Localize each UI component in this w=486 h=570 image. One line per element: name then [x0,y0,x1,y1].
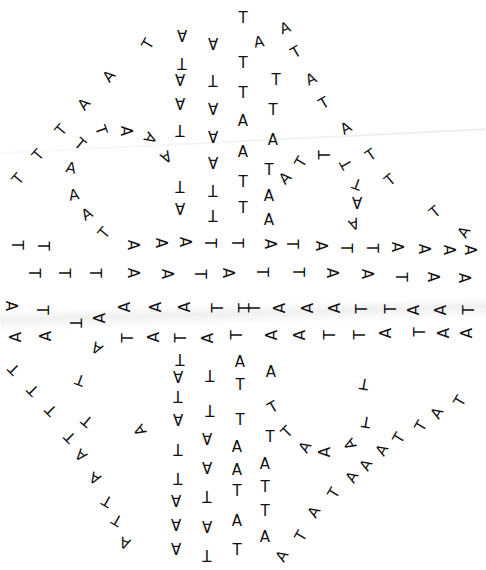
nucleotide-thymine: T [87,266,103,280]
nucleotide-adenine: A [125,266,141,280]
nucleotide-adenine: A [272,546,293,566]
nucleotide-adenine: A [159,267,175,281]
nucleotide-adenine: A [230,513,244,529]
nucleotide-adenine: A [266,132,280,148]
nucleotide-adenine: A [345,214,364,234]
nucleotide-thymine: T [56,266,72,280]
nucleotide-thymine: T [263,429,277,445]
nucleotide-adenine: A [173,200,187,216]
nucleotide-adenine: A [169,492,183,508]
nucleotide-thymine: T [236,174,250,190]
nucleotide-thymine: T [210,301,226,315]
nucleotide-thymine: T [206,182,220,198]
nucleotide-thymine: T [27,144,48,165]
nucleotide-thymine: T [411,416,432,436]
nucleotide-adenine: A [206,35,220,51]
nucleotide-adenine: A [118,124,134,138]
nucleotide-adenine: A [264,328,280,342]
nucleotide-thymine: T [286,42,306,63]
nucleotide-thymine: T [230,542,244,558]
nucleotide-adenine: A [313,239,329,253]
nucleotide-adenine: A [262,237,278,251]
nucleotide-thymine: T [393,270,409,284]
nucleotide-thymine: T [76,410,97,431]
nucleotide-thymine: T [40,399,61,420]
nucleotide-thymine: T [322,328,338,342]
nucleotide-thymine: T [354,302,370,316]
nucleotide-thymine: T [192,267,208,281]
nucleotide-adenine: A [378,326,394,340]
nucleotide-adenine: A [206,128,220,144]
nucleotide-thymine: T [69,133,90,154]
nucleotide-thymine: T [352,328,368,342]
nucleotide-thymine: T [200,547,214,563]
nucleotide-thymine: T [383,302,399,316]
nucleotide-thymine: T [206,207,220,223]
nucleotide-adenine: A [340,434,361,454]
nucleotide-adenine: A [251,33,268,51]
nucleotide-adenine: A [262,212,276,228]
nucleotide-thymine: T [203,402,217,418]
nucleotide-thymine: T [236,55,250,71]
nucleotide-adenine: A [336,118,356,139]
nucleotide-adenine: A [3,299,19,313]
nucleotide-adenine: A [66,186,83,204]
nucleotide-thymine: T [236,85,250,101]
nucleotide-adenine: A [153,236,169,250]
nucleotide-adenine: A [406,303,422,317]
nucleotide-thymine: T [379,169,400,190]
nucleotide-thymine: T [233,412,247,428]
nucleotide-thymine: T [229,236,245,250]
nucleotide-adenine: A [350,194,364,210]
nucleotide-thymine: T [93,222,114,243]
nucleotide-thymine: T [7,168,28,189]
nucleotide-adenine: A [427,403,448,423]
nucleotide-thymine: T [266,102,280,118]
nucleotide-adenine: A [456,271,472,285]
nucleotide-adenine: A [258,529,272,545]
nucleotide-thymine: T [258,503,272,519]
nucleotide-thymine: T [276,421,297,442]
nucleotide-adenine: A [38,329,54,343]
nucleotide-adenine: A [262,188,276,204]
nucleotide-thymine: T [348,174,367,194]
structure-diagram: TAATATATTTAAATTTTAAATTAATAAATTTATTATAAAA… [0,0,486,570]
nucleotide-thymine: T [338,241,354,255]
nucleotide-thymine: T [34,303,50,317]
nucleotide-adenine: A [146,330,162,344]
nucleotide-thymine: T [284,237,300,251]
nucleotide-adenine: A [177,300,193,314]
nucleotide-thymine: T [247,301,263,315]
nucleotide-adenine: A [73,93,94,114]
nucleotide-thymine: T [171,441,185,457]
nucleotide-thymine: T [236,10,250,26]
nucleotide-adenine: A [220,266,236,280]
nucleotide-thymine: T [3,358,24,379]
nucleotide-adenine: A [206,100,220,116]
nucleotide-thymine: T [203,367,217,383]
nucleotide-adenine: A [117,300,133,314]
nucleotide-thymine: T [120,331,136,345]
nucleotide-adenine: A [233,354,247,370]
nucleotide-thymine: T [361,144,382,165]
nucleotide-adenine: A [295,437,316,457]
nucleotide-adenine: A [125,238,141,252]
nucleotide-adenine: A [304,502,325,522]
nucleotide-thymine: T [230,483,244,499]
nucleotide-thymine: T [269,72,283,88]
nucleotide-adenine: A [441,243,457,257]
nucleotide-thymine: T [358,413,375,431]
nucleotide-thymine: T [50,119,71,140]
nucleotide-thymine: T [461,303,477,317]
nucleotide-adenine: A [317,445,333,459]
nucleotide-thymine: T [291,152,312,172]
nucleotide-adenine: A [459,326,475,340]
nucleotide-adenine: A [230,439,244,455]
nucleotide-thymine: T [71,370,90,390]
nucleotide-thymine: T [229,328,245,342]
nucleotide-adenine: A [92,311,108,325]
nucleotide-adenine: A [177,235,193,249]
nucleotide-adenine: A [324,266,340,280]
nucleotide-adenine: A [300,301,316,315]
nucleotide-adenine: A [200,518,214,534]
